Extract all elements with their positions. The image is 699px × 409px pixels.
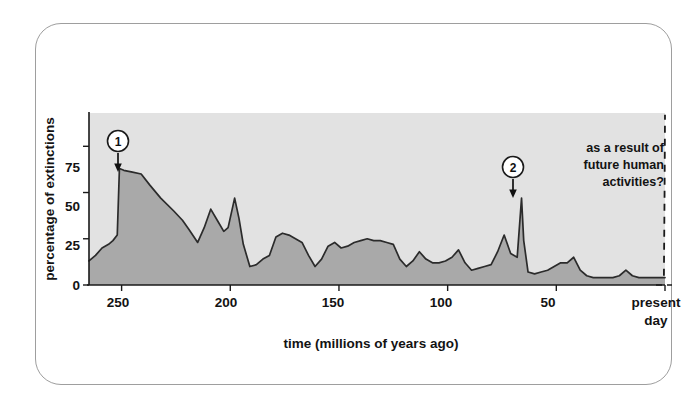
callout-2-label: 2 [510,161,517,175]
x-axis-title: time (millions of years ago) [284,336,459,351]
future-annotation-line-1: as a result of [586,141,664,155]
extinction-figure: 75 50 25 0 250 200 150 100 50 present da… [0,0,699,409]
x-tick-label-present-day: day [644,313,668,328]
callout-1-label: 1 [115,135,122,149]
y-tick-label-0: 0 [72,278,80,293]
x-tick-label-present: present [632,295,681,310]
x-tick-label-100: 100 [430,295,453,310]
y-tick-label-50: 50 [65,199,80,214]
y-axis-title: percentage of extinctions [42,117,57,281]
future-annotation-line-2: future human [584,158,664,172]
x-tick-label-200: 200 [215,295,238,310]
future-annotation-line-3: activities? [602,175,664,189]
extinction-chart: 75 50 25 0 250 200 150 100 50 present da… [0,0,699,409]
x-tick-label-250: 250 [107,295,130,310]
y-tick-label-25: 25 [65,238,81,253]
x-tick-label-50: 50 [540,295,555,310]
y-axis-ticks [83,146,89,285]
x-axis-ticks [122,285,665,291]
x-tick-label-150: 150 [322,295,345,310]
y-tick-label-75: 75 [65,160,81,175]
